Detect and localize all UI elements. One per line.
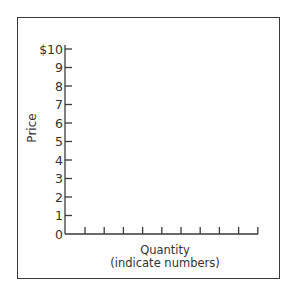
y-tick-label: 9 [55, 60, 63, 75]
y-tick-label: 7 [55, 97, 63, 112]
y-tick-label: 3 [55, 171, 63, 186]
y-tick-label: 8 [55, 79, 63, 94]
y-tick-label: 5 [55, 134, 63, 149]
y-tick-label: 4 [55, 153, 63, 168]
y-tick-label: $10 [39, 42, 63, 57]
y-tick-label: 6 [55, 116, 63, 131]
y-tick-label: 2 [55, 190, 63, 205]
x-axis-label-block: Quantity (indicate numbers) [100, 244, 230, 270]
y-tick-label: 1 [55, 208, 63, 223]
y-axis-label: Price [25, 113, 39, 142]
x-axis-note: (indicate numbers) [100, 257, 230, 270]
y-tick-label: 0 [55, 227, 63, 242]
